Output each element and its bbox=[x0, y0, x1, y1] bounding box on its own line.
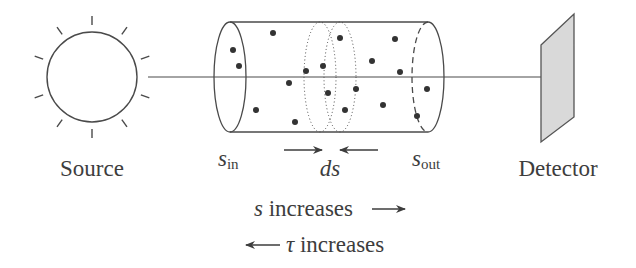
particle bbox=[325, 90, 331, 96]
s-out-base: s bbox=[412, 146, 421, 171]
particle bbox=[230, 47, 236, 53]
sun-ray bbox=[122, 27, 127, 34]
particle bbox=[369, 58, 375, 64]
detector-plate-icon bbox=[541, 14, 574, 142]
tau-increases-text: increases bbox=[294, 232, 384, 257]
particle bbox=[303, 68, 309, 74]
sun-ray bbox=[57, 120, 62, 127]
particle bbox=[236, 63, 242, 69]
sun-ray bbox=[57, 27, 62, 34]
s-increases-text: increases bbox=[263, 196, 353, 221]
particle bbox=[380, 102, 386, 108]
sun-ray bbox=[122, 120, 127, 127]
sun-icon bbox=[35, 16, 150, 138]
s-out-label: sout bbox=[412, 146, 441, 172]
s-in-subscript: in bbox=[227, 156, 239, 172]
particle bbox=[353, 86, 359, 92]
sun-ray bbox=[35, 95, 43, 98]
ds-label: ds bbox=[320, 156, 341, 181]
source-circle bbox=[47, 32, 137, 122]
sun-rays bbox=[35, 16, 150, 138]
particle bbox=[337, 35, 343, 41]
particle bbox=[392, 36, 398, 42]
particle bbox=[270, 30, 276, 36]
sun-ray bbox=[141, 56, 149, 59]
radiative-transfer-diagram: Source Detector sin sout ds s increases … bbox=[0, 0, 636, 268]
s-in-label: sin bbox=[218, 146, 239, 172]
particle bbox=[292, 119, 298, 125]
s-out-subscript: out bbox=[421, 156, 441, 172]
particle bbox=[414, 113, 420, 119]
source-label: Source bbox=[60, 156, 124, 181]
detector-label: Detector bbox=[518, 156, 598, 181]
s-symbol: s bbox=[254, 196, 263, 221]
particle bbox=[286, 80, 292, 86]
sun-ray bbox=[35, 56, 43, 59]
particle bbox=[397, 69, 403, 75]
s-in-base: s bbox=[218, 146, 227, 171]
particle bbox=[253, 107, 259, 113]
tau-increases-label: τ increases bbox=[286, 232, 384, 257]
particle bbox=[320, 63, 326, 69]
particle bbox=[342, 107, 348, 113]
s-increases-label: s increases bbox=[254, 196, 353, 221]
particle bbox=[424, 86, 430, 92]
sun-ray bbox=[141, 95, 149, 98]
